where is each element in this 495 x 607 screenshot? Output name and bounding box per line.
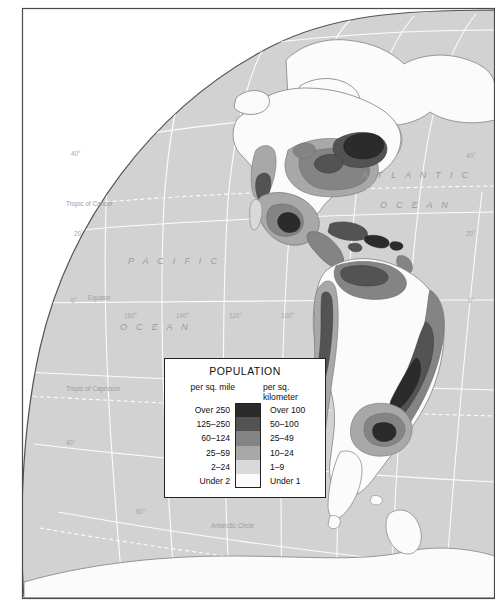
legend-rows: Over 250Over 100125–25050–10060–12425–49…	[165, 403, 325, 488]
legend-color-swatch	[235, 460, 261, 474]
population-legend: POPULATION per sq. mile per sq. kilomete…	[164, 358, 326, 498]
legend-label-per-sq-kilometer: 10–24	[261, 448, 325, 458]
legend-title: POPULATION	[165, 365, 325, 377]
legend-label-per-sq-mile: 60–124	[165, 433, 235, 443]
legend-row: Under 2Under 1	[165, 474, 325, 488]
buenos-aires-core	[373, 422, 396, 441]
legend-row: Over 250Over 100	[165, 403, 325, 417]
map-figure: P A C I F I C O C E A N A T L A N T I C …	[0, 0, 495, 607]
tierra-del-fuego	[328, 515, 340, 528]
legend-color-swatch	[235, 417, 261, 431]
legend-header-per-sq-kilometer: per sq. kilometer	[259, 382, 325, 402]
legend-label-per-sq-mile: 125–250	[165, 419, 235, 429]
legend-headers: per sq. mile per sq. kilometer	[165, 382, 325, 402]
legend-header-spacer	[235, 382, 259, 402]
legend-row: 125–25050–100	[165, 417, 325, 431]
legend-label-per-sq-kilometer: Over 100	[261, 405, 325, 415]
legend-label-per-sq-kilometer: 50–100	[261, 419, 325, 429]
legend-label-per-sq-mile: 2–24	[165, 462, 235, 472]
legend-color-swatch	[235, 431, 261, 445]
falkland-islands	[370, 495, 382, 504]
legend-row: 60–12425–49	[165, 431, 325, 445]
puerto-rico	[390, 242, 403, 251]
legend-header-per-sq-mile: per sq. mile	[165, 382, 235, 402]
legend-label-per-sq-kilometer: 25–49	[261, 433, 325, 443]
legend-color-swatch	[235, 446, 261, 460]
legend-row: 2–241–9	[165, 460, 325, 474]
legend-label-per-sq-kilometer: Under 1	[261, 476, 325, 486]
legend-color-swatch	[235, 403, 261, 417]
legend-label-per-sq-mile: Over 250	[165, 405, 235, 415]
legend-row: 25–5910–24	[165, 446, 325, 460]
legend-label-per-sq-mile: 25–59	[165, 448, 235, 458]
legend-label-per-sq-mile: Under 2	[165, 476, 235, 486]
world-map-graphic	[0, 0, 495, 607]
legend-color-swatch	[235, 474, 261, 488]
legend-label-per-sq-kilometer: 1–9	[261, 462, 325, 472]
usa-megalopolis-core	[344, 133, 384, 159]
